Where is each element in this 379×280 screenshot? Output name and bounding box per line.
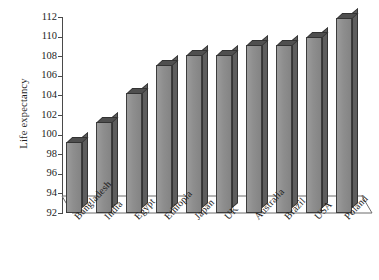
bar-body <box>336 18 352 213</box>
bar-body <box>126 93 142 213</box>
bar-face-front <box>306 37 322 213</box>
bar-body <box>66 142 82 213</box>
y-axis-title: Life expectancy <box>18 39 29 189</box>
bar-face-front <box>336 18 352 213</box>
bar-face-front <box>246 45 262 213</box>
bar-egypt[interactable] <box>122 17 152 213</box>
bar-body <box>246 45 262 213</box>
y-tick-label: 108 <box>41 49 57 63</box>
bar-japan[interactable] <box>182 17 212 213</box>
bar-face-side <box>262 35 268 208</box>
bar-face-side <box>322 27 328 208</box>
bar-brazil[interactable] <box>272 17 302 213</box>
bar-usa[interactable] <box>302 17 332 213</box>
y-tick-label: 92 <box>47 206 58 220</box>
bar-body <box>306 37 322 213</box>
y-tick-label: 104 <box>41 88 57 102</box>
y-tick-label: 112 <box>42 10 57 24</box>
bar-ethiopia[interactable] <box>152 17 182 213</box>
y-tick-label: 96 <box>47 166 58 180</box>
x-axis-labels: BangladeshIndiaEgyptEthiopiaJapanUKAustr… <box>62 214 372 280</box>
bar-face-side <box>232 45 238 208</box>
bar-chart: Life expectancy 929496981001021041061081… <box>0 0 379 280</box>
y-tick-label: 102 <box>41 108 57 122</box>
bar-face-side <box>352 8 358 208</box>
y-tick-label: 110 <box>42 29 57 43</box>
bar-uk[interactable] <box>212 17 242 213</box>
bar-face-side <box>202 45 208 208</box>
y-tick-label: 94 <box>47 186 58 200</box>
bar-face-side <box>172 55 178 208</box>
bar-face-front <box>126 93 142 213</box>
bar-face-side <box>292 35 298 208</box>
bar-face-front <box>66 142 82 213</box>
bar-body <box>216 55 232 213</box>
bar-australia[interactable] <box>242 17 272 213</box>
y-tick-label: 106 <box>41 68 57 82</box>
y-tick-label: 100 <box>41 127 57 141</box>
bar-face-front <box>216 55 232 213</box>
bar-poland[interactable] <box>332 17 362 213</box>
bar-face-front <box>156 65 172 213</box>
bar-bangladesh[interactable] <box>62 17 92 213</box>
y-tick-label: 98 <box>47 147 58 161</box>
bar-face-side <box>142 83 148 208</box>
bar-body <box>156 65 172 213</box>
bar-face-side <box>112 112 118 208</box>
